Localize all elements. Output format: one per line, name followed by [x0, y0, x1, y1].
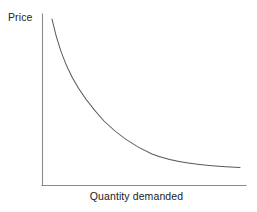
chart-canvas — [0, 0, 257, 212]
demand-curve-path — [52, 19, 240, 168]
x-axis-label: Quantity demanded — [0, 190, 257, 202]
demand-curve-chart: Price Quantity demanded — [0, 0, 257, 212]
y-axis-label: Price — [8, 11, 32, 23]
